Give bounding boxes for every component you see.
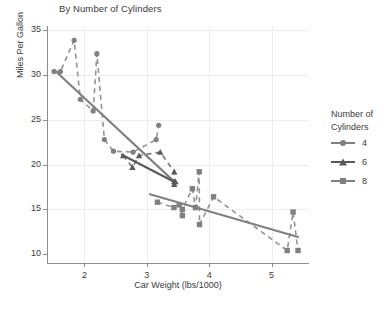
legend-entry-4[interactable]: 4 — [331, 134, 391, 152]
plot-area: Miles Per Gallon Car Weight (lbs/1000) 1… — [47, 26, 309, 263]
square-icon — [340, 178, 346, 184]
x-tick-label: 2 — [82, 270, 87, 280]
data-point-8 — [197, 169, 202, 174]
x-axis-line — [47, 263, 309, 264]
x-tick-label: 4 — [207, 270, 212, 280]
circle-icon — [340, 140, 346, 146]
legend-title-line1: Number of — [331, 108, 391, 121]
data-point-8 — [180, 207, 185, 212]
legend-entry-8[interactable]: 8 — [331, 172, 391, 190]
triangle-icon — [339, 159, 347, 166]
x-tick-label: 3 — [144, 270, 149, 280]
legend-key-4 — [331, 138, 355, 148]
data-point-4 — [111, 149, 116, 154]
x-tick — [272, 263, 273, 267]
chart-root: By Number of Cylinders Miles Per Gallon … — [0, 0, 392, 316]
data-point-4 — [154, 137, 159, 142]
data-point-4 — [58, 69, 63, 74]
data-point-8 — [197, 222, 202, 227]
legend-title-line2: Cylinders — [331, 121, 391, 134]
y-axis-label-text: Miles Per Gallon — [15, 12, 25, 78]
y-tick-label: 25 — [31, 114, 41, 124]
series-4 — [51, 38, 174, 182]
connector-line-8 — [157, 172, 298, 251]
y-tick-label: 10 — [31, 248, 41, 258]
x-tick-label: 5 — [269, 270, 274, 280]
legend-label-8: 8 — [362, 176, 367, 186]
data-point-4 — [102, 137, 107, 142]
chart-title: By Number of Cylinders — [59, 3, 162, 14]
legend: Number of Cylinders 468 — [331, 108, 391, 190]
data-point-8 — [295, 248, 300, 253]
data-point-4 — [156, 123, 161, 128]
series-6 — [120, 149, 179, 187]
trend-line-8 — [150, 194, 298, 237]
x-axis-label: Car Weight (lbs/1000) — [47, 280, 309, 290]
y-tick-label: 35 — [31, 24, 41, 34]
y-tick-label: 30 — [31, 69, 41, 79]
data-point-4 — [51, 69, 56, 74]
series-layer — [47, 26, 309, 263]
legend-title: Number of Cylinders — [331, 108, 391, 133]
legend-entry-6[interactable]: 6 — [331, 153, 391, 171]
data-point-8 — [171, 205, 176, 210]
data-point-4 — [78, 97, 83, 102]
data-point-6 — [120, 152, 126, 158]
data-point-8 — [190, 186, 195, 191]
connector-line-4 — [54, 40, 159, 152]
data-point-8 — [284, 248, 289, 253]
x-tick — [209, 263, 210, 267]
legend-label-4: 4 — [362, 138, 367, 148]
legend-key-6 — [331, 157, 355, 167]
x-tick — [84, 263, 85, 267]
data-point-4 — [94, 51, 99, 56]
legend-entries: 468 — [331, 134, 391, 190]
data-point-4 — [130, 150, 135, 155]
legend-label-6: 6 — [362, 157, 367, 167]
data-point-8 — [155, 199, 160, 204]
x-tick — [147, 263, 148, 267]
data-point-4 — [91, 108, 96, 113]
data-point-6 — [171, 169, 177, 175]
data-point-4 — [72, 38, 77, 43]
data-point-8 — [211, 194, 216, 199]
y-axis-label: Miles Per Gallon — [15, 12, 25, 78]
data-point-8 — [193, 205, 198, 210]
legend-key-8 — [331, 176, 355, 186]
data-point-8 — [290, 209, 295, 214]
y-tick-label: 20 — [31, 159, 41, 169]
y-tick-label: 15 — [31, 203, 41, 213]
data-point-8 — [180, 213, 185, 218]
